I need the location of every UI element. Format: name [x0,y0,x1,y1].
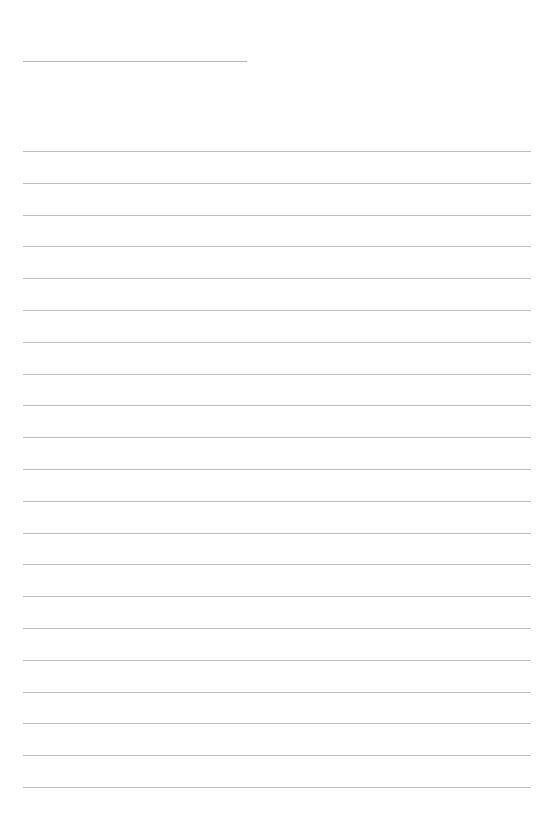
writing-line[interactable] [23,596,531,597]
writing-line[interactable] [23,692,531,693]
lined-paper-page [0,0,542,830]
writing-line[interactable] [23,787,531,788]
writing-line[interactable] [23,374,531,375]
writing-line[interactable] [23,215,531,216]
writing-line[interactable] [23,405,531,406]
writing-line[interactable] [23,628,531,629]
writing-line[interactable] [23,564,531,565]
writing-line[interactable] [23,151,531,152]
writing-line[interactable] [23,533,531,534]
writing-line[interactable] [23,501,531,502]
writing-line[interactable] [23,660,531,661]
writing-line[interactable] [23,723,531,724]
writing-area [23,0,531,830]
writing-line[interactable] [23,278,531,279]
writing-line[interactable] [23,469,531,470]
writing-line[interactable] [23,342,531,343]
writing-line[interactable] [23,183,531,184]
writing-line[interactable] [23,310,531,311]
writing-line[interactable] [23,437,531,438]
writing-line[interactable] [23,755,531,756]
writing-line[interactable] [23,246,531,247]
